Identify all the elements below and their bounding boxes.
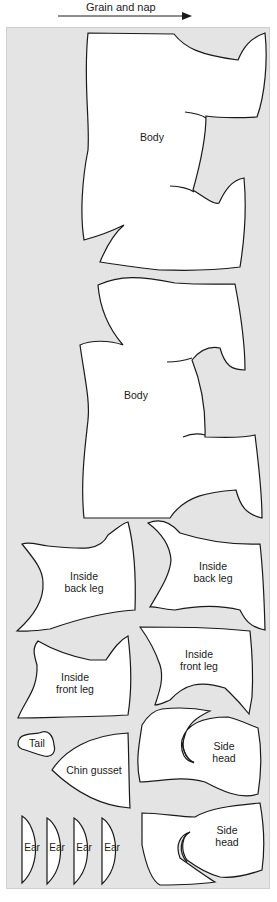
label-ear-1: Ear <box>24 842 40 854</box>
label-inside-back-leg-2: Insideback leg <box>193 560 232 584</box>
label-body-2: Body <box>124 389 148 401</box>
pattern-piece-side-head-1 <box>138 708 261 796</box>
label-chin-gusset: Chin gusset <box>66 764 121 776</box>
label-ear-2: Ear <box>49 842 65 854</box>
pattern-piece-side-head-2 <box>142 803 264 885</box>
label-inside-front-leg-2: Insidefront leg <box>180 648 218 672</box>
label-ear-4: Ear <box>104 842 120 854</box>
label-body-1: Body <box>140 131 164 143</box>
label-side-head-1: Sidehead <box>212 740 235 764</box>
label-tail: Tail <box>29 737 45 749</box>
pattern-piece-body-2 <box>80 278 262 518</box>
pattern-pieces <box>0 0 277 902</box>
label-inside-back-leg-1: Insideback leg <box>64 570 103 594</box>
label-ear-3: Ear <box>76 842 92 854</box>
label-inside-front-leg-1: Insidefront leg <box>56 671 94 695</box>
pattern-piece-body-1 <box>82 33 266 270</box>
label-side-head-2: Sidehead <box>215 824 238 848</box>
